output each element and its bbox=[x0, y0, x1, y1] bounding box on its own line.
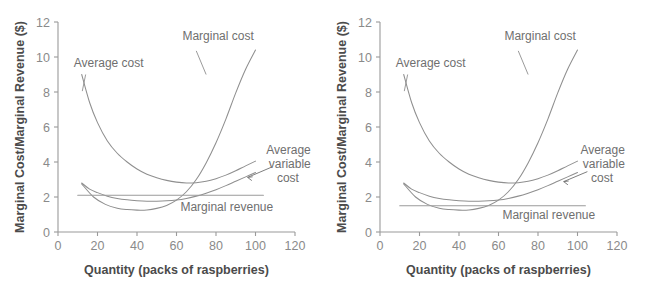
x-tick-label: 0 bbox=[377, 239, 384, 253]
x-axis-title: Quantity (packs of raspberries) bbox=[84, 263, 269, 277]
x-tick-label: 60 bbox=[492, 239, 506, 253]
annotation-average-cost: Average cost bbox=[396, 56, 466, 70]
avc-arrow-head bbox=[248, 177, 253, 181]
series-marginal-cost bbox=[82, 50, 256, 210]
y-tick-label: 12 bbox=[358, 16, 372, 30]
y-tick-label: 4 bbox=[365, 156, 372, 170]
x-tick-label: 20 bbox=[413, 239, 427, 253]
series-marginal-cost bbox=[404, 50, 578, 210]
x-tick-label: 100 bbox=[245, 239, 266, 253]
x-tick-label: 120 bbox=[285, 239, 306, 253]
avc-arrow-shaft bbox=[248, 167, 272, 177]
y-tick-label: 8 bbox=[43, 86, 50, 100]
annotation-avc-line1: Average bbox=[266, 143, 311, 157]
annotation-average-cost: Average cost bbox=[74, 56, 144, 70]
series-average-variable-cost bbox=[82, 173, 256, 202]
chart-right-svg: 024681012020406080100120Quantity (packs … bbox=[322, 0, 645, 291]
x-tick-label: 40 bbox=[130, 239, 144, 253]
x-tick-label: 80 bbox=[209, 239, 223, 253]
y-tick-label: 6 bbox=[365, 121, 372, 135]
y-tick-label: 2 bbox=[43, 191, 50, 205]
chart-panel-left: 024681012020406080100120Quantity (packs … bbox=[0, 0, 322, 291]
plot-area: 024681012020406080100120Quantity (packs … bbox=[335, 16, 627, 278]
annotation-marginal-revenue: Marginal revenue bbox=[180, 200, 273, 214]
annotation-avc-line2: variable bbox=[583, 157, 625, 171]
y-tick-label: 2 bbox=[365, 191, 372, 205]
annotation-avc-line3: cost bbox=[591, 171, 614, 185]
y-axis-title: Marginal Cost/Marginal Revenue ($) bbox=[13, 21, 27, 233]
x-tick-label: 100 bbox=[567, 239, 588, 253]
x-tick-label: 20 bbox=[91, 239, 105, 253]
y-tick-label: 6 bbox=[43, 121, 50, 135]
annotation-marginal-revenue: Marginal revenue bbox=[502, 208, 595, 222]
y-tick-label: 10 bbox=[358, 51, 372, 65]
figure-root: 024681012020406080100120Quantity (packs … bbox=[0, 0, 645, 291]
annotation-marginal-cost: Marginal cost bbox=[182, 29, 254, 43]
x-tick-label: 40 bbox=[452, 239, 466, 253]
chart-left-svg: 024681012020406080100120Quantity (packs … bbox=[0, 0, 322, 291]
x-tick-label: 60 bbox=[170, 239, 184, 253]
series-average-variable-cost bbox=[404, 173, 578, 202]
plot-area: 024681012020406080100120Quantity (packs … bbox=[13, 16, 311, 278]
annotation-marginal-cost: Marginal cost bbox=[504, 29, 576, 43]
x-tick-label: 80 bbox=[531, 239, 545, 253]
y-tick-label: 10 bbox=[36, 51, 50, 65]
annotation-avc-line2: variable bbox=[269, 157, 311, 171]
x-tick-label: 0 bbox=[55, 239, 62, 253]
marginal-cost-leader bbox=[196, 51, 206, 75]
series-average-cost bbox=[82, 75, 256, 184]
x-tick-label: 120 bbox=[607, 239, 628, 253]
y-tick-label: 0 bbox=[43, 226, 50, 240]
y-tick-label: 0 bbox=[365, 226, 372, 240]
y-tick-label: 4 bbox=[43, 156, 50, 170]
y-tick-label: 12 bbox=[36, 16, 50, 30]
annotation-avc-line3: cost bbox=[277, 171, 300, 185]
chart-panel-right: 024681012020406080100120Quantity (packs … bbox=[322, 0, 644, 291]
y-tick-label: 8 bbox=[365, 86, 372, 100]
x-axis-title: Quantity (packs of raspberries) bbox=[406, 263, 591, 277]
y-axis-title: Marginal Cost/Marginal Revenue ($) bbox=[335, 21, 349, 233]
series-average-cost bbox=[404, 75, 578, 184]
avc-arrow-head bbox=[564, 181, 569, 185]
marginal-cost-leader bbox=[518, 51, 528, 75]
annotation-avc-line1: Average bbox=[580, 143, 625, 157]
